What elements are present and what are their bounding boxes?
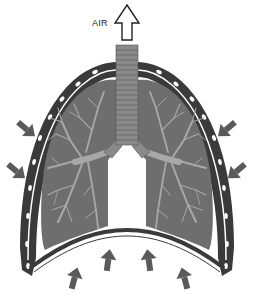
arrow-up-1-icon (64, 265, 85, 290)
arrow-up-2-icon (99, 248, 118, 272)
left-lung (41, 80, 116, 250)
arrow-up-3-icon (139, 248, 158, 272)
lungs-illustration (0, 0, 253, 301)
arrow-up-4-icon (174, 265, 195, 290)
air-out-arrow-icon (115, 5, 139, 40)
lungs-diagram: AIR (0, 0, 253, 301)
trachea (116, 45, 138, 145)
mediastinum (120, 146, 134, 232)
arrow-left-upper-icon (13, 116, 40, 142)
right-lung (138, 80, 213, 250)
diaphragm-arrows (64, 248, 195, 291)
